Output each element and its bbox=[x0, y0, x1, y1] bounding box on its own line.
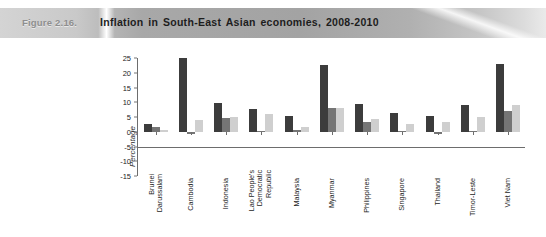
x-axis-label-cell: Myanmar bbox=[314, 178, 349, 237]
x-axis-category-label-line: Darussalam bbox=[156, 174, 164, 237]
x-axis-category-label-line: Myanmar bbox=[328, 178, 336, 237]
bar-2010 bbox=[442, 122, 450, 132]
x-axis-category-label: Indonesia bbox=[222, 178, 230, 237]
x-axis-tick-mark bbox=[473, 132, 474, 135]
x-axis-label-cell: Cambodia bbox=[173, 178, 208, 237]
bar-group bbox=[138, 58, 173, 176]
bar-group-bars bbox=[350, 58, 385, 176]
bar-2009 bbox=[504, 111, 512, 131]
bar-group bbox=[455, 58, 490, 176]
y-axis-tick-label: 5 bbox=[127, 113, 131, 122]
x-axis-labels: BruneiDarussalamCambodiaIndonesiaLao Peo… bbox=[138, 178, 526, 237]
bar-2008 bbox=[320, 65, 328, 131]
x-axis-category-label-line: Republic bbox=[266, 170, 274, 236]
x-axis-category-label: Viet Nam bbox=[504, 178, 512, 237]
x-axis-tick-mark bbox=[402, 132, 403, 135]
bar-group bbox=[314, 58, 349, 176]
x-axis-category-label: BruneiDarussalam bbox=[147, 174, 164, 237]
x-axis-category-label: Thailand bbox=[434, 178, 442, 237]
y-axis-tick-label: 10 bbox=[123, 98, 131, 107]
bar-group-bars bbox=[491, 58, 526, 176]
bar-group-bars bbox=[244, 58, 279, 176]
x-axis-label-cell: Thailand bbox=[420, 178, 455, 237]
y-axis-tick-label: 15 bbox=[123, 83, 131, 92]
bar-2008 bbox=[496, 64, 504, 132]
bar-2010 bbox=[301, 127, 309, 132]
bar-group-bars bbox=[385, 58, 420, 176]
bar-2010 bbox=[230, 117, 238, 132]
bar-group bbox=[173, 58, 208, 176]
x-axis-category-label: Malaysia bbox=[292, 178, 300, 237]
bar-group-bars bbox=[209, 58, 244, 176]
x-axis-label-cell: Timor-Leste bbox=[455, 178, 490, 237]
x-axis-label-cell: BruneiDarussalam bbox=[138, 178, 173, 237]
bar-2008 bbox=[144, 124, 152, 132]
bar-2009 bbox=[222, 118, 230, 132]
bar-group-bars bbox=[138, 58, 173, 176]
plot-area bbox=[138, 58, 526, 176]
y-axis-tick-label: -5 bbox=[124, 142, 131, 151]
y-axis-tick-label: 25 bbox=[123, 54, 131, 63]
x-axis-category-label-line: Indonesia bbox=[222, 178, 230, 237]
bar-group bbox=[279, 58, 314, 176]
x-axis-category-label-line: Philippines bbox=[363, 178, 371, 237]
x-axis-tick-mark bbox=[332, 132, 333, 135]
bar-2008 bbox=[355, 104, 363, 131]
x-axis-category-label-line: Timor-Leste bbox=[469, 178, 477, 237]
bar-2008 bbox=[179, 58, 187, 132]
bar-chart: Percentage 2520151050-5-10-15 BruneiDaru… bbox=[0, 44, 546, 237]
bar-2008 bbox=[214, 103, 222, 132]
bar-group bbox=[491, 58, 526, 176]
y-axis-tick-label: 20 bbox=[123, 68, 131, 77]
bar-2008 bbox=[461, 105, 469, 132]
bar-2008 bbox=[426, 116, 434, 132]
x-axis-category-label-line: Cambodia bbox=[187, 178, 195, 237]
bar-group bbox=[244, 58, 279, 176]
figure-title: Inflation in South-East Asian economies,… bbox=[100, 16, 379, 28]
bar-2010 bbox=[371, 119, 379, 132]
x-axis-tick-mark bbox=[367, 132, 368, 135]
bar-2008 bbox=[390, 113, 398, 132]
y-axis-ticks: 2520151050-5-10-15 bbox=[110, 58, 134, 176]
x-axis-category-label: Myanmar bbox=[328, 178, 336, 237]
x-axis-category-label: Timor-Leste bbox=[469, 178, 477, 237]
bar-group bbox=[385, 58, 420, 176]
x-axis-tick-mark bbox=[438, 132, 439, 135]
figure-header-band: Figure 2.16. Inflation in South-East Asi… bbox=[0, 8, 546, 38]
x-axis-category-label: Lao People'sDemocraticRepublic bbox=[249, 170, 274, 236]
bar-2010 bbox=[160, 130, 168, 131]
figure-number: Figure 2.16. bbox=[22, 17, 77, 28]
x-axis-tick-mark bbox=[156, 132, 157, 135]
y-axis-tick-label: 0 bbox=[127, 127, 131, 136]
x-axis-label-cell: Malaysia bbox=[279, 178, 314, 237]
x-axis-tick-mark bbox=[261, 132, 262, 135]
bar-2009 bbox=[363, 122, 371, 131]
x-axis-label-cell: Philippines bbox=[350, 178, 385, 237]
bar-group bbox=[350, 58, 385, 176]
bar-2008 bbox=[249, 109, 257, 131]
bar-group bbox=[420, 58, 455, 176]
bar-group bbox=[209, 58, 244, 176]
bar-2009 bbox=[328, 108, 336, 132]
bar-group-bars bbox=[420, 58, 455, 176]
x-axis-category-label-line: Malaysia bbox=[292, 178, 300, 237]
bar-2008 bbox=[285, 116, 293, 132]
x-axis-category-label: Singapore bbox=[398, 178, 406, 237]
y-axis-tick-label: -10 bbox=[120, 157, 131, 166]
x-axis-category-label: Philippines bbox=[363, 178, 371, 237]
bar-2010 bbox=[336, 108, 344, 132]
bar-2010 bbox=[195, 120, 203, 132]
x-axis-tick-mark bbox=[508, 132, 509, 135]
x-axis-tick-mark bbox=[297, 132, 298, 135]
bar-2010 bbox=[265, 114, 273, 132]
bar-2010 bbox=[406, 124, 414, 132]
bar-group-bars bbox=[173, 58, 208, 176]
bar-2010 bbox=[512, 105, 520, 132]
y-axis-tick-label: -15 bbox=[120, 172, 131, 181]
bar-2010 bbox=[477, 117, 485, 132]
x-axis-tick-mark bbox=[226, 132, 227, 135]
x-axis-category-label-line: Singapore bbox=[398, 178, 406, 237]
x-axis-category-label: Cambodia bbox=[187, 178, 195, 237]
bar-group-bars bbox=[279, 58, 314, 176]
x-axis-label-cell: Singapore bbox=[385, 178, 420, 237]
